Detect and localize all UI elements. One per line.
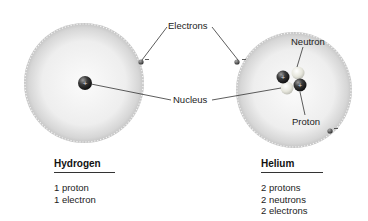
helium-atom: + + xyxy=(234,32,352,148)
svg-text:+: + xyxy=(83,79,88,88)
hydrogen-electron-icon xyxy=(138,59,143,64)
hydrogen-title: Hydrogen xyxy=(54,158,101,169)
hydrogen-fact: 1 electron xyxy=(54,194,96,206)
helium-facts: 2 protons 2 neutrons 2 electrons xyxy=(261,182,307,217)
svg-text:+: + xyxy=(281,74,285,81)
nucleus-label: Nucleus xyxy=(173,95,207,105)
svg-text:+: + xyxy=(298,82,302,89)
helium-electron-icon xyxy=(234,59,239,64)
neutron-label: Neutron xyxy=(291,37,325,47)
hydrogen-atom: + xyxy=(24,23,149,143)
helium-title: Helium xyxy=(261,158,294,169)
electrons-label: Electrons xyxy=(168,21,208,31)
hydrogen-divider xyxy=(54,172,115,173)
hydrogen-facts: 1 proton 1 electron xyxy=(54,182,96,205)
helium-neutron-icon xyxy=(292,67,305,80)
helium-fact: 2 protons xyxy=(261,182,307,194)
helium-fact: 2 neutrons xyxy=(261,194,307,206)
helium-divider xyxy=(261,172,323,173)
atom-diagram: + + + xyxy=(0,0,368,221)
proton-label: Proton xyxy=(292,117,320,127)
hydrogen-fact: 1 proton xyxy=(54,182,96,194)
helium-fact: 2 electrons xyxy=(261,205,307,217)
helium-electron-icon xyxy=(327,128,332,133)
